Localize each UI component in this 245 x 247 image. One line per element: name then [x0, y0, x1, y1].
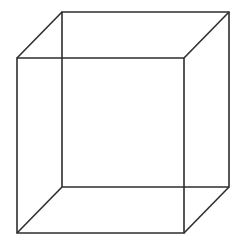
necker-cube-figure [0, 0, 245, 247]
cube-drawing-svg [0, 0, 245, 247]
